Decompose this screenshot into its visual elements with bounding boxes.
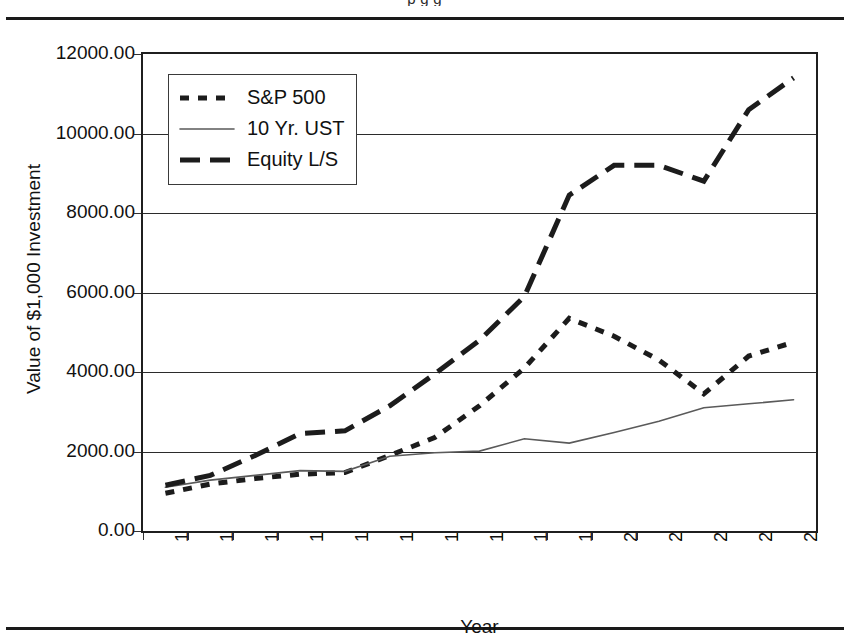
- y-axis-tick-label: 0.00: [15, 519, 135, 541]
- series-line-s-p-500: [165, 318, 793, 493]
- legend-item-label: 10 Yr. UST: [247, 117, 344, 140]
- legend-swatch-icon: [179, 153, 235, 167]
- legend-item-label: S&P 500: [247, 86, 326, 109]
- scanned-figure: p g g Value of $1,000 Investment Year 0.…: [0, 0, 849, 643]
- x-axis-title: Year: [141, 616, 818, 638]
- y-axis-tick-label: 10000.00: [15, 122, 135, 144]
- y-axis-tick-label: 2000.00: [15, 440, 135, 462]
- x-axis-tick-mark: [143, 533, 144, 540]
- legend-item: 10 Yr. UST: [179, 113, 344, 144]
- y-axis-tick-label: 8000.00: [15, 201, 135, 223]
- y-axis-tick-label: 12000.00: [15, 42, 135, 64]
- legend-item: Equity L/S: [179, 144, 344, 175]
- y-axis-tick-label: 4000.00: [15, 360, 135, 382]
- legend-swatch-icon: [179, 122, 235, 136]
- chart-legend: S&P 50010 Yr. USTEquity L/S: [168, 74, 357, 185]
- series-line-10-yr-ust: [165, 400, 793, 487]
- line-chart: Value of $1,000 Investment Year 0.002000…: [0, 28, 849, 608]
- clipped-caption-fragment: p g g: [0, 0, 849, 6]
- legend-item-label: Equity L/S: [247, 148, 338, 171]
- page-rule-top: [6, 17, 844, 20]
- legend-swatch-icon: [179, 91, 235, 105]
- y-axis-tick-label: 6000.00: [15, 281, 135, 303]
- legend-item: S&P 500: [179, 82, 344, 113]
